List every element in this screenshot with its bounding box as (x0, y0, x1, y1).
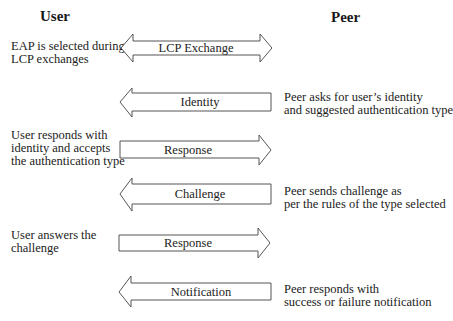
arrow-label-response-2: Response (164, 236, 212, 250)
arrow-lcp-exchange: LCP Exchange (121, 34, 272, 62)
arrow-label-lcp-exchange: LCP Exchange (159, 41, 234, 55)
arrow-label-identity: Identity (181, 95, 221, 109)
arrow-notification: Notification (119, 276, 271, 307)
arrow-response-2: Response (119, 228, 270, 258)
arrow-label-response-1: Response (164, 143, 212, 157)
arrow-label-challenge: Challenge (175, 187, 226, 201)
arrow-identity: Identity (120, 88, 271, 117)
arrow-label-notification: Notification (171, 285, 232, 299)
arrow-challenge: Challenge (120, 178, 271, 211)
arrow-response-1: Response (120, 135, 271, 165)
